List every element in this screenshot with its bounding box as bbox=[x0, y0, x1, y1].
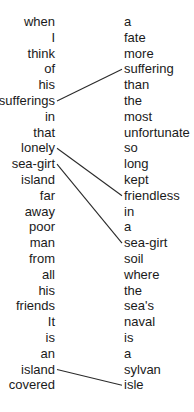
source-word: I bbox=[0, 30, 55, 46]
target-word: a bbox=[124, 346, 190, 362]
source-word: far bbox=[0, 188, 55, 204]
target-word: so bbox=[124, 140, 190, 156]
source-word: an bbox=[0, 346, 55, 362]
target-word: sea-girt bbox=[124, 235, 190, 251]
target-word: long bbox=[124, 156, 190, 172]
source-word: island bbox=[0, 362, 55, 378]
source-word: lonely bbox=[0, 140, 55, 156]
target-word: sea's bbox=[124, 298, 190, 314]
target-word: naval bbox=[124, 314, 190, 330]
source-word: of bbox=[0, 61, 55, 77]
source-word: think bbox=[0, 46, 55, 62]
alignment-link bbox=[57, 148, 122, 195]
target-word: where bbox=[124, 267, 190, 283]
source-word: poor bbox=[0, 219, 55, 235]
alignment-link bbox=[57, 69, 122, 101]
source-word: his bbox=[0, 283, 55, 299]
source-word: sufferings bbox=[0, 93, 55, 109]
target-word: than bbox=[124, 77, 190, 93]
target-word: isle bbox=[124, 377, 190, 393]
target-word: a bbox=[124, 14, 190, 30]
source-word: sea-girt bbox=[0, 156, 55, 172]
source-word: in bbox=[0, 109, 55, 125]
target-word: unfortunate bbox=[124, 125, 190, 141]
target-word: the bbox=[124, 93, 190, 109]
source-word: away bbox=[0, 204, 55, 220]
source-word: friends bbox=[0, 298, 55, 314]
source-word-column: whenIthinkofhissufferingsinthatlonelysea… bbox=[0, 14, 55, 393]
source-word: covered bbox=[0, 377, 55, 393]
target-word: more bbox=[124, 46, 190, 62]
target-word: suffering bbox=[124, 61, 190, 77]
source-word: when bbox=[0, 14, 55, 30]
target-word: in bbox=[124, 204, 190, 220]
source-word: man bbox=[0, 235, 55, 251]
target-word: fate bbox=[124, 30, 190, 46]
alignment-link bbox=[57, 164, 122, 243]
source-word: his bbox=[0, 77, 55, 93]
target-word: friendless bbox=[124, 188, 190, 204]
target-word: kept bbox=[124, 172, 190, 188]
source-word: It bbox=[0, 314, 55, 330]
source-word: island bbox=[0, 172, 55, 188]
target-word: most bbox=[124, 109, 190, 125]
source-word: from bbox=[0, 251, 55, 267]
target-word: the bbox=[124, 283, 190, 299]
source-word: is bbox=[0, 330, 55, 346]
target-word: is bbox=[124, 330, 190, 346]
target-word: soil bbox=[124, 251, 190, 267]
source-word: all bbox=[0, 267, 55, 283]
target-word: sylvan bbox=[124, 362, 190, 378]
target-word-column: afatemoresufferingthanthemostunfortunate… bbox=[124, 14, 190, 393]
source-word: that bbox=[0, 125, 55, 141]
target-word: a bbox=[124, 219, 190, 235]
alignment-link bbox=[57, 370, 122, 386]
